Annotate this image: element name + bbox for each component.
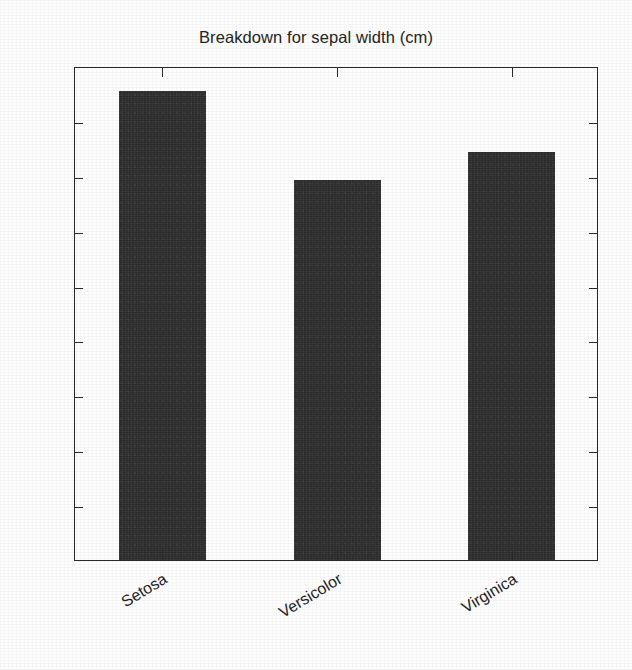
y-tick-right-120 [589, 233, 597, 234]
y-tick-left-20 [75, 507, 83, 508]
x-tick-top-versicolor [337, 68, 338, 77]
y-tick-right-20 [589, 507, 597, 508]
plot-area [74, 67, 598, 561]
y-tick-right-40 [589, 452, 597, 453]
x-tick-label-virginica: Virginica [339, 570, 520, 670]
x-tick-label-versicolor: Versicolor [165, 570, 346, 670]
y-tick-left-100 [75, 288, 83, 289]
chart-title: Breakdown for sepal width (cm) [0, 28, 632, 47]
y-tick-right-80 [589, 342, 597, 343]
y-tick-left-140 [75, 178, 83, 179]
chart-figure: Breakdown for sepal width (cm) 020406080… [0, 0, 632, 670]
x-tick-top-virginica [512, 68, 513, 77]
x-tick-top-setosa [162, 68, 163, 77]
y-tick-right-100 [589, 288, 597, 289]
y-tick-right-60 [589, 397, 597, 398]
y-tick-left-120 [75, 233, 83, 234]
x-tick-bottom-virginica [512, 551, 513, 560]
y-tick-left-80 [75, 342, 83, 343]
x-tick-bottom-versicolor [337, 551, 338, 560]
y-tick-right-140 [589, 178, 597, 179]
bars-layer [75, 68, 597, 560]
x-tick-label-setosa: Setosa [0, 570, 171, 670]
y-tick-left-60 [75, 397, 83, 398]
bar-versicolor [294, 180, 381, 560]
x-tick-bottom-setosa [162, 551, 163, 560]
y-tick-left-40 [75, 452, 83, 453]
y-tick-left-160 [75, 123, 83, 124]
bar-setosa [119, 91, 206, 560]
bar-virginica [468, 152, 555, 560]
y-tick-right-160 [589, 123, 597, 124]
